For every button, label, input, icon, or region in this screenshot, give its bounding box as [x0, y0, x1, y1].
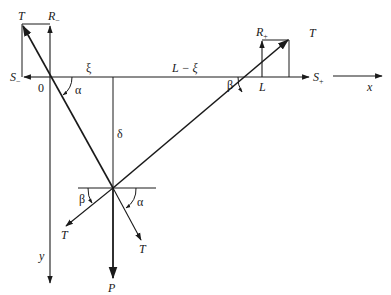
label-l: L: [259, 81, 266, 93]
label-t-right-top: T: [309, 27, 316, 39]
label-r-minus-sub: −: [55, 16, 60, 25]
label-s-minus-sub: −: [16, 77, 21, 86]
label-y-axis: y: [39, 250, 44, 262]
label-xi: ξ: [86, 62, 91, 74]
label-s-plus: S+: [313, 71, 324, 86]
t-bottom-left-arrow: [66, 188, 113, 226]
label-r-minus: R−: [48, 10, 60, 25]
label-t-left-top: T: [18, 10, 25, 22]
label-beta-bottom: β: [79, 193, 85, 205]
beta-bottom-arc: [88, 188, 92, 203]
label-origin: 0: [38, 82, 44, 94]
label-s-minus: S−: [10, 71, 21, 86]
label-l-minus-xi: L − ξ: [172, 62, 198, 74]
label-r-plus-sub: +: [263, 32, 268, 41]
label-t-bottom-right: T: [139, 243, 146, 255]
label-r-plus: R+: [256, 26, 268, 41]
label-beta-top: β: [227, 79, 233, 91]
label-t-bottom-left: T: [61, 229, 68, 241]
label-p-load: P: [108, 282, 115, 294]
label-alpha-bottom: α: [137, 196, 143, 208]
alpha-bottom-arc: [126, 188, 136, 208]
label-s-plus-sub: +: [319, 77, 324, 86]
alpha-top-arc: [63, 77, 72, 95]
diagram-canvas: [0, 0, 391, 295]
label-x-axis: x: [367, 81, 372, 93]
label-delta: δ: [117, 128, 123, 140]
cable-force-diagram: T R− S− 0 ξ α L − ξ β L R+ T S+ x δ β α …: [0, 0, 391, 295]
label-alpha-top: α: [75, 84, 81, 96]
cable-left-tension: [23, 26, 113, 188]
